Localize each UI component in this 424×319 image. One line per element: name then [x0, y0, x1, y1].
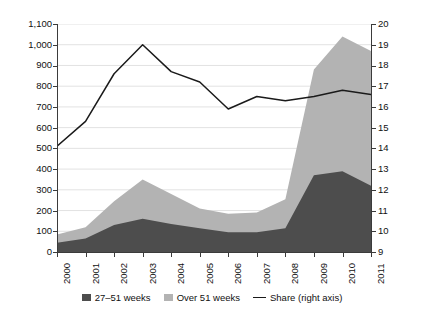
- y-axis-right-tickmark: [372, 148, 376, 149]
- y-axis-right-tickmark: [372, 86, 376, 87]
- y-axis-right-tickmark: [372, 252, 376, 253]
- y-axis-left-tick-500: 500: [4, 143, 52, 153]
- y-axis-left-tick-1000: 1,000: [4, 40, 52, 50]
- plot-area: [57, 24, 371, 252]
- legend-label-27-51-weeks: 27–51 weeks: [95, 292, 151, 303]
- y-axis-left-tickmark: [53, 24, 57, 25]
- y-axis-right-tick-9: 9: [378, 247, 408, 257]
- y-axis-right-tick-14: 14: [378, 143, 408, 153]
- x-axis-tick-2000: 2000: [61, 263, 72, 284]
- y-axis-right: [371, 24, 372, 253]
- y-axis-left-tickmark: [53, 45, 57, 46]
- chart-canvas: [57, 24, 371, 252]
- x-axis-tickmark: [57, 253, 58, 257]
- x-axis-tickmark: [314, 253, 315, 257]
- y-axis-right-tickmark: [372, 66, 376, 67]
- y-axis-right-tickmark: [372, 128, 376, 129]
- x-axis-tick-2011: 2011: [375, 264, 386, 284]
- y-axis-right-tickmark: [372, 169, 376, 170]
- x-axis-tickmark: [371, 253, 372, 257]
- legend-line-icon: [253, 297, 266, 298]
- y-axis-left-tick-600: 600: [4, 123, 52, 133]
- y-axis-right-tick-19: 19: [378, 40, 408, 50]
- y-axis-right-tickmark: [372, 190, 376, 191]
- y-axis-right-tick-10: 10: [378, 226, 408, 236]
- legend-label-share: Share (right axis): [270, 292, 342, 303]
- x-axis-tick-2008: 2008: [289, 263, 300, 284]
- x-axis-tick-2009: 2009: [318, 263, 329, 284]
- y-axis-right-tick-13: 13: [378, 164, 408, 174]
- y-axis-left-tick-400: 400: [4, 164, 52, 174]
- legend-item-27-51-weeks: 27–51 weeks: [82, 292, 151, 303]
- y-axis-left-tick-200: 200: [4, 206, 52, 216]
- x-axis-tickmark: [171, 253, 172, 257]
- x-axis-tickmark: [114, 253, 115, 257]
- y-axis-left-tick-700: 700: [4, 102, 52, 112]
- x-axis-tickmark: [86, 253, 87, 257]
- y-axis-right-tickmark: [372, 231, 376, 232]
- x-axis-tickmark: [143, 253, 144, 257]
- y-axis-left-tickmark: [53, 86, 57, 87]
- y-axis-left-tickmark: [53, 107, 57, 108]
- x-axis-tickmark: [343, 253, 344, 257]
- x-axis-tick-2010: 2010: [346, 263, 357, 284]
- y-axis-right-tickmark: [372, 211, 376, 212]
- y-axis-left-tickmark: [53, 231, 57, 232]
- chart-container: 01002003004005006007008009001,0001,100 9…: [0, 0, 424, 319]
- y-axis-left-tick-300: 300: [4, 185, 52, 195]
- y-axis-right-tick-16: 16: [378, 102, 408, 112]
- x-axis-tickmark: [285, 253, 286, 257]
- y-axis-left-tick-100: 100: [4, 226, 52, 236]
- legend-item-over-51-weeks: Over 51 weeks: [164, 292, 240, 303]
- y-axis-left-tickmark: [53, 66, 57, 67]
- x-axis-tick-2001: 2001: [90, 263, 101, 284]
- x-axis: [57, 252, 372, 253]
- y-axis-right-tickmark: [372, 24, 376, 25]
- x-axis-tickmark: [228, 253, 229, 257]
- y-axis-left-tickmark: [53, 190, 57, 191]
- y-axis-left-tick-800: 800: [4, 81, 52, 91]
- x-axis-tick-2004: 2004: [175, 263, 186, 284]
- y-axis-left-tickmark: [53, 148, 57, 149]
- legend-swatch-light-icon: [164, 294, 173, 301]
- chart-legend: 27–51 weeks Over 51 weeks Share (right a…: [0, 292, 424, 303]
- y-axis-right-tick-20: 20: [378, 19, 408, 29]
- y-axis-left-tick-0: 0: [4, 247, 52, 257]
- legend-swatch-dark-icon: [82, 294, 91, 301]
- y-axis-left-tickmark: [53, 211, 57, 212]
- y-axis-left-tick-1100: 1,100: [4, 19, 52, 29]
- x-axis-tick-2002: 2002: [118, 263, 129, 284]
- x-axis-tick-2007: 2007: [261, 263, 272, 284]
- x-axis-tick-2006: 2006: [232, 263, 243, 284]
- x-axis-tickmark: [257, 253, 258, 257]
- x-axis-tickmark: [200, 253, 201, 257]
- y-axis-right-tick-17: 17: [378, 81, 408, 91]
- y-axis-left-tick-900: 900: [4, 60, 52, 70]
- y-axis-right-tick-15: 15: [378, 123, 408, 133]
- y-axis-right-tick-11: 11: [378, 206, 408, 216]
- y-axis-left-tickmark: [53, 169, 57, 170]
- y-axis-left: [57, 24, 58, 253]
- y-axis-right-tick-18: 18: [378, 60, 408, 70]
- y-axis-left-tickmark: [53, 128, 57, 129]
- x-axis-tick-2005: 2005: [204, 263, 215, 284]
- legend-label-over-51-weeks: Over 51 weeks: [177, 292, 240, 303]
- x-axis-tick-2003: 2003: [147, 263, 158, 284]
- y-axis-right-tickmark: [372, 107, 376, 108]
- y-axis-right-tick-12: 12: [378, 185, 408, 195]
- y-axis-right-tickmark: [372, 45, 376, 46]
- legend-item-share: Share (right axis): [253, 292, 342, 303]
